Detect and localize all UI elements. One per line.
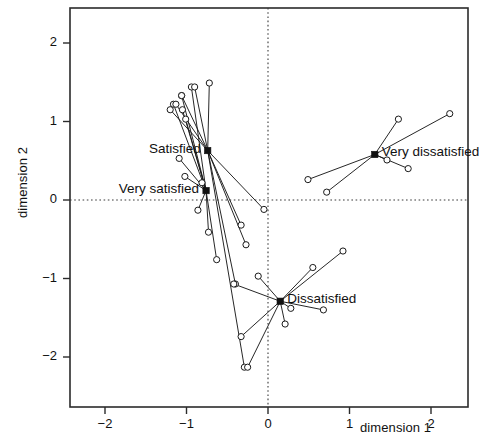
y-tick-label: 1 bbox=[21, 113, 57, 128]
x-tick-label: 1 bbox=[330, 416, 370, 431]
y-tick-label: 2 bbox=[21, 34, 57, 49]
group-label-satisfied: Satisfied bbox=[149, 141, 201, 156]
x-tick-label: −2 bbox=[85, 416, 125, 431]
group-label-very-satisfied: Very satisfied bbox=[119, 181, 199, 196]
y-axis-title: dimension 2 bbox=[15, 123, 30, 243]
y-tick-label: −2 bbox=[21, 348, 57, 363]
y-tick-label: −1 bbox=[21, 270, 57, 285]
scatter-plot-figure: dimension 2 dimension 1 −2−1012−2−1012 V… bbox=[0, 0, 480, 442]
group-label-dissatisfied: Dissatisfied bbox=[287, 291, 356, 306]
y-tick-label: 0 bbox=[21, 191, 57, 206]
group-label-very-dissatisfied: Very dissatisfied bbox=[382, 144, 480, 159]
plot-background bbox=[0, 0, 480, 442]
x-tick-label: 2 bbox=[411, 416, 451, 431]
x-tick-label: −1 bbox=[167, 416, 207, 431]
plot-canvas bbox=[0, 0, 480, 442]
x-tick-label: 0 bbox=[248, 416, 288, 431]
